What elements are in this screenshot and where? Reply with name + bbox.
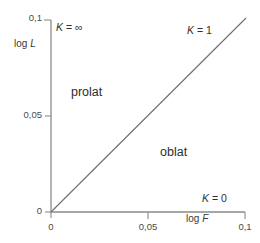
y-axis-title: log L xyxy=(14,39,36,49)
k-one-value: 1 xyxy=(206,24,212,36)
k-zero-value: 0 xyxy=(221,192,227,204)
x-tick-label-left: 0 xyxy=(48,222,53,232)
annotation-k-infinity: K = ∞ xyxy=(56,22,83,33)
x-tick-label-mid: 0,05 xyxy=(139,222,158,232)
x-axis-title-variable: F xyxy=(202,213,208,224)
k-infinity-variable: K xyxy=(56,21,63,33)
x-axis-title-prefix: log xyxy=(186,213,199,224)
region-label-prolate: prolat xyxy=(71,86,102,99)
k-infinity-value: ∞ xyxy=(75,21,83,33)
annotation-k-zero: K = 0 xyxy=(202,193,227,204)
k-equals-one-diagonal-line xyxy=(51,18,246,212)
y-axis-title-prefix: log xyxy=(14,38,27,49)
y-tick-label-top: 0,1 xyxy=(8,13,42,23)
annotation-k-one: K = 1 xyxy=(187,25,212,36)
y-axis-title-variable: L xyxy=(30,38,36,49)
figure-container: 0,1 0,05 0 log L 0 0,05 0,1 log F K = ∞ … xyxy=(0,0,260,243)
region-label-oblate: oblat xyxy=(160,146,187,159)
k-zero-variable: K xyxy=(202,192,209,204)
y-tick-label-bottom: 0 xyxy=(8,206,42,216)
x-tick-label-right: 0,1 xyxy=(238,222,251,232)
k-one-variable: K xyxy=(187,24,194,36)
y-tick-label-mid: 0,05 xyxy=(4,110,42,120)
x-axis-title: log F xyxy=(186,214,208,224)
